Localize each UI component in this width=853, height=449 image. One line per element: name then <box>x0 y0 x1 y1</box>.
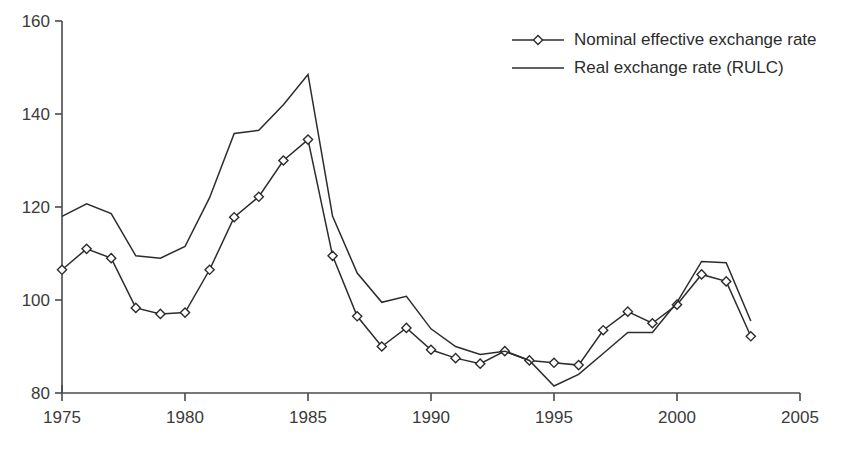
data-point-marker <box>451 354 460 363</box>
legend-label: Nominal effective exchange rate <box>574 30 817 49</box>
y-axis-tick-label: 80 <box>31 384 50 403</box>
x-axis-tick-label: 2005 <box>781 408 819 427</box>
series-line-2 <box>62 74 751 386</box>
x-axis-tick-label: 1985 <box>289 408 327 427</box>
data-point-marker <box>131 303 140 312</box>
data-point-marker <box>746 332 755 341</box>
y-axis-tick-label: 120 <box>22 198 50 217</box>
line-chart: 80100120140160 1975198019851990199520002… <box>0 0 853 449</box>
data-series <box>62 74 751 386</box>
legend-label: Real exchange rate (RULC) <box>574 58 784 77</box>
y-axis-tick-label: 100 <box>22 291 50 310</box>
chart-legend: Nominal effective exchange rateReal exch… <box>512 30 817 77</box>
x-axis-tick-label: 1980 <box>166 408 204 427</box>
data-point-marker <box>476 359 485 368</box>
data-point-marker <box>549 358 558 367</box>
x-axis-tick-label: 1975 <box>43 408 81 427</box>
data-series-group <box>57 74 755 386</box>
x-axis-tick-label: 1990 <box>412 408 450 427</box>
data-point-marker <box>574 361 583 370</box>
y-axis: 80100120140160 <box>22 12 62 403</box>
y-axis-tick-label: 160 <box>22 12 50 31</box>
legend-item: Real exchange rate (RULC) <box>512 58 784 77</box>
x-axis-tick-label: 1995 <box>535 408 573 427</box>
x-axis: 1975198019851990199520002005 <box>43 385 819 427</box>
data-point-marker <box>722 277 731 286</box>
legend-diamond-marker <box>533 35 542 44</box>
data-point-marker <box>107 254 116 263</box>
data-point-marker <box>156 309 165 318</box>
data-point-marker <box>180 308 189 317</box>
data-point-marker <box>328 251 337 260</box>
chart-container: 80100120140160 1975198019851990199520002… <box>0 0 853 449</box>
data-point-marker <box>205 265 214 274</box>
x-axis-tick-label: 2000 <box>658 408 696 427</box>
data-series <box>57 135 755 370</box>
y-axis-tick-label: 140 <box>22 105 50 124</box>
legend-item: Nominal effective exchange rate <box>512 30 817 49</box>
